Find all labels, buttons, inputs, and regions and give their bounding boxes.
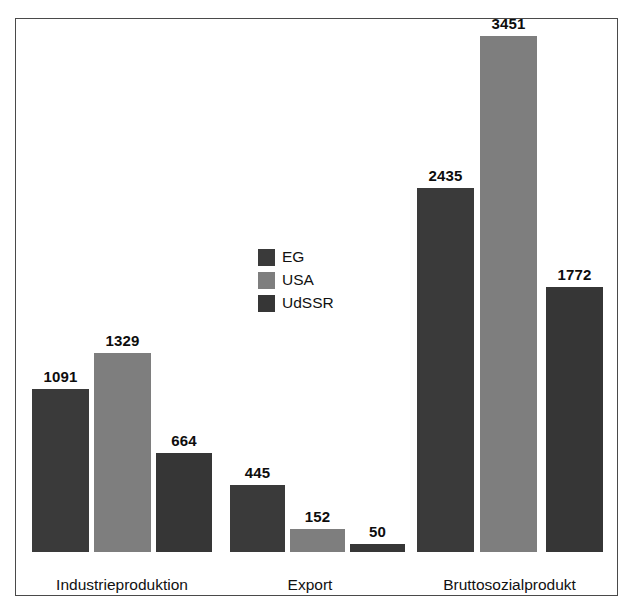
category-label-industrieproduktion: Industrieproduktion bbox=[22, 576, 222, 594]
bar-industrieproduktion-udssr[interactable] bbox=[156, 453, 212, 552]
legend-item-label: UdSSR bbox=[282, 295, 334, 311]
bar-value-label: 152 bbox=[290, 508, 345, 525]
bar-industrieproduktion-eg[interactable] bbox=[32, 389, 89, 552]
legend-item-usa[interactable]: USA bbox=[258, 271, 334, 289]
legend-item-eg[interactable]: EG bbox=[258, 248, 334, 266]
bar-value-label: 1329 bbox=[94, 332, 151, 349]
bar-bruttosozialprodukt-eg[interactable] bbox=[417, 188, 474, 552]
bar-value-label: 50 bbox=[350, 523, 405, 540]
legend-item-label: EG bbox=[282, 249, 304, 265]
chart-legend: EG USA UdSSR bbox=[258, 248, 334, 312]
bar-group-bruttosozialprodukt: 2435 3451 1772 bbox=[417, 52, 607, 552]
bar-value-label: 2435 bbox=[417, 167, 474, 184]
legend-swatch-icon bbox=[258, 295, 275, 312]
legend-item-udssr[interactable]: UdSSR bbox=[258, 294, 334, 312]
legend-swatch-icon bbox=[258, 272, 275, 289]
bar-value-label: 445 bbox=[230, 464, 285, 481]
category-label-bruttosozialprodukt: Bruttosozialprodukt bbox=[407, 576, 612, 594]
bar-value-label: 664 bbox=[156, 432, 212, 449]
bar-bruttosozialprodukt-usa[interactable] bbox=[480, 36, 537, 552]
bar-industrieproduktion-usa[interactable] bbox=[94, 353, 151, 552]
bar-export-usa[interactable] bbox=[290, 529, 345, 552]
bar-group-industrieproduktion: 1091 1329 664 bbox=[32, 52, 212, 552]
category-label-export: Export bbox=[230, 576, 390, 594]
bar-export-eg[interactable] bbox=[230, 485, 285, 552]
bar-value-label: 3451 bbox=[480, 15, 537, 32]
legend-swatch-icon bbox=[258, 249, 275, 266]
bar-chart-figure: 1091 1329 664 445 152 50 bbox=[0, 0, 633, 615]
legend-item-label: USA bbox=[282, 272, 314, 288]
bar-value-label: 1091 bbox=[32, 368, 89, 385]
bar-value-label: 1772 bbox=[546, 266, 603, 283]
bar-bruttosozialprodukt-udssr[interactable] bbox=[546, 287, 603, 552]
bar-export-udssr[interactable] bbox=[350, 544, 405, 552]
